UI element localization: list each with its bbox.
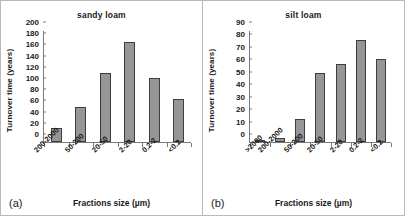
x-label-cell: <0.2 [371,147,391,187]
y-tick-label: 30 [236,92,249,101]
x-axis-title-a: Fractions size (µm) [27,198,196,208]
y-axis-title-b: Turnover time (years) [205,31,219,149]
plot-area-b: >2000200-200050-20020-502-200.2-2<0.2 01… [249,31,391,143]
bar-20-50 [100,73,111,142]
plot-area-a: 200-200050-20020-502-200.2-2<0.2 0204060… [43,31,191,143]
bar-series-a [44,31,191,142]
y-tick-mark [43,66,46,67]
x-label-cell: 200-2000 [44,147,69,187]
y-tick-label: 90 [236,18,249,27]
y-tick-mark [249,71,252,72]
x-label-cell: 20-50 [310,147,330,187]
y-tick-mark [43,55,46,56]
y-tick-mark [249,59,252,60]
y-tick-label: 120 [26,62,43,71]
bar-2-20 [124,42,135,142]
x-label-cell: 20-50 [93,147,118,187]
panel-sandy-loam: sandy loam Turnover time (years) 200-200… [0,0,203,216]
y-tick-label: 70 [236,42,249,51]
y-tick-label: 0 [241,130,249,139]
x-label-cell: 0.2-2 [142,147,167,187]
y-tick-mark [249,22,252,23]
y-axis-title-a-text: Turnover time (years) [6,48,15,131]
bar-cell [371,31,391,142]
bar-cell [118,31,143,142]
bar-cell [351,31,371,142]
y-tick-mark [43,44,46,45]
y-tick-mark [43,22,46,23]
y-tick-mark [43,33,46,34]
y-tick-mark [43,122,46,123]
x-tick-mark [191,143,192,147]
y-tick-mark [249,109,252,110]
y-tick-label: 20 [30,118,43,127]
y-tick-mark [43,100,46,101]
x-tick-mark [391,143,392,147]
bar-0.2-2 [356,40,366,142]
bar-2-20 [336,64,346,142]
bar-series-b [250,31,391,142]
y-tick-label: 60 [30,96,43,105]
panel-label-b: (b) [211,197,224,209]
x-tick-labels-a: 200-200050-20020-502-200.2-2<0.2 [44,147,191,187]
y-tick-mark [43,89,46,90]
bar-cell [250,31,270,142]
bar-cell [44,31,69,142]
y-tick-label: 60 [236,55,249,64]
bar-cell [331,31,351,142]
bar-<0.2 [376,59,386,142]
y-tick-label: 80 [236,30,249,39]
bar-cell [69,31,94,142]
y-tick-label: 40 [236,80,249,89]
y-tick-mark [249,46,252,47]
x-tick-labels-b: >2000200-200050-20020-502-200.2-2<0.2 [250,147,391,187]
y-tick-mark [43,134,46,135]
x-label-cell: 2-20 [118,147,143,187]
y-axis-title-b-text: Turnover time (years) [208,48,217,131]
y-tick-mark [249,134,252,135]
y-tick-mark [249,96,252,97]
y-tick-mark [43,111,46,112]
y-tick-label: 50 [236,67,249,76]
y-tick-mark [249,34,252,35]
y-tick-label: 20 [236,105,249,114]
bar-<0.2 [173,99,184,142]
x-label-cell: 2-20 [331,147,351,187]
chart-title-b: silt loam [203,10,404,20]
bar-cell [290,31,310,142]
y-axis-title-a: Turnover time (years) [3,31,17,149]
y-tick-label: 160 [26,40,43,49]
y-tick-label: 200 [26,18,43,27]
panel-label-a: (a) [9,197,22,209]
x-label-cell: <0.2 [167,147,192,187]
x-label-cell: 0.2-2 [351,147,371,187]
bar-0.2-2 [149,78,160,142]
y-tick-label: 180 [26,29,43,38]
x-axis-title-b: Fractions size (µm) [229,198,398,208]
y-tick-label: 10 [236,117,249,126]
bar-20-50 [315,73,325,142]
y-tick-label: 100 [26,74,43,83]
y-tick-label: 0 [35,130,43,139]
x-label-cell: 50-200 [69,147,94,187]
y-tick-label: 40 [30,107,43,116]
x-label-cell: 50-200 [290,147,310,187]
bar-cell [310,31,330,142]
y-tick-mark [43,78,46,79]
y-tick-mark [249,84,252,85]
figure: sandy loam Turnover time (years) 200-200… [0,0,405,216]
bar-cell [270,31,290,142]
y-tick-label: 140 [26,51,43,60]
y-tick-mark [249,121,252,122]
bar-cell [167,31,192,142]
y-tick-label: 80 [30,85,43,94]
panel-silt-loam: silt loam Turnover time (years) >2000200… [203,0,405,216]
bar-cell [142,31,167,142]
bar-cell [93,31,118,142]
